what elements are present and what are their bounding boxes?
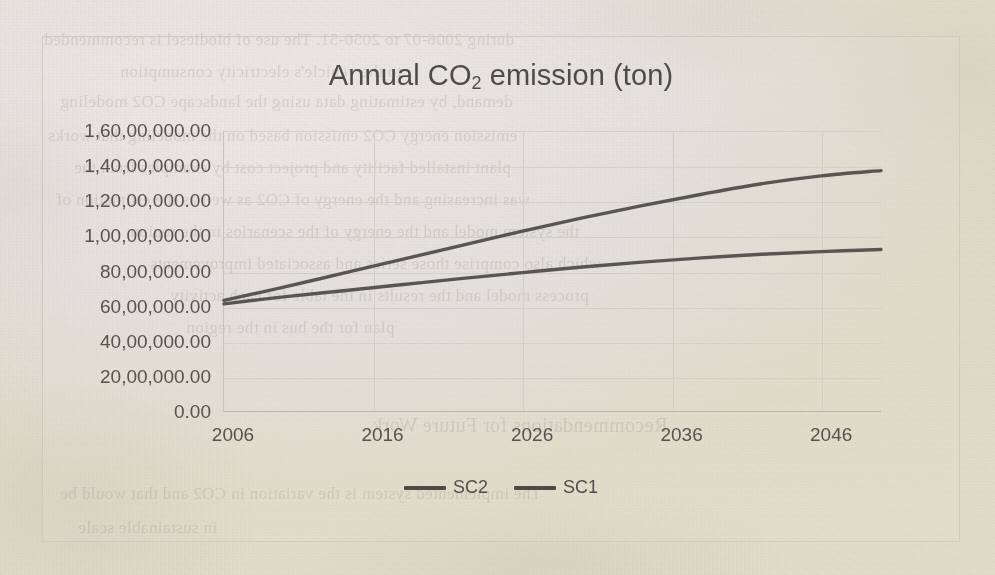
legend-label: SC1	[563, 477, 598, 498]
legend-label: SC2	[453, 477, 488, 498]
legend-line-swatch-icon	[404, 486, 446, 490]
x-axis-tick-label: 2026	[511, 424, 553, 446]
legend-item-sc1[interactable]: SC1	[514, 477, 598, 498]
chart-frame: Annual CO2 emission (ton) 1,60,00,000.00…	[42, 36, 960, 542]
legend-line-swatch-icon	[514, 486, 556, 490]
chart-legend: SC2SC1	[43, 477, 959, 498]
x-axis-tick-labels: 20062016202620362046	[43, 37, 961, 543]
legend-item-sc2[interactable]: SC2	[404, 477, 488, 498]
x-axis-tick-label: 2046	[810, 424, 852, 446]
x-axis-tick-label: 2016	[361, 424, 403, 446]
x-axis-tick-label: 2036	[660, 424, 702, 446]
x-axis-tick-label: 2006	[212, 424, 254, 446]
